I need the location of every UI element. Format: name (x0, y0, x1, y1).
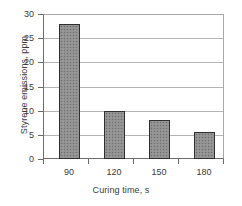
x-tick-mark (88, 159, 89, 164)
x-tick-mark (43, 159, 44, 164)
x-axis-title: Curing time, s (0, 185, 242, 195)
bar-chart: Styrene emissions, ppm 30 25 20 15 10 5 … (0, 0, 242, 206)
y-tick-label-0: 0 (0, 155, 34, 164)
y-tick-label-30: 30 (0, 10, 34, 19)
y-tick-label-15: 15 (0, 83, 34, 92)
bar-180 (194, 132, 215, 159)
x-tick-mark (133, 159, 134, 164)
x-tick-label-180: 180 (184, 167, 224, 177)
y-tick-label-10: 10 (0, 107, 34, 116)
y-tick-label-25: 25 (0, 34, 34, 43)
bar-90 (59, 24, 80, 159)
y-tick-label-20: 20 (0, 58, 34, 67)
x-tick-label-120: 120 (94, 167, 134, 177)
bar-150 (149, 120, 170, 159)
x-tick-mark (178, 159, 179, 164)
bar-120 (104, 111, 125, 159)
x-tick-mark (223, 159, 224, 164)
x-tick-label-150: 150 (139, 167, 179, 177)
y-tick-label-5: 5 (0, 131, 34, 140)
bars (43, 14, 224, 159)
y-axis: 30 25 20 15 10 5 0 (0, 0, 43, 206)
x-tick-label-90: 90 (49, 167, 89, 177)
